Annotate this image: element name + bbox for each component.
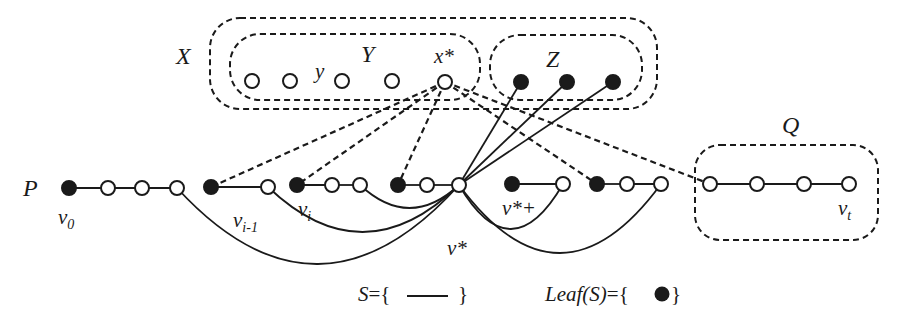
set-label-Z: Z <box>546 46 560 72</box>
dashed-edges <box>211 82 710 187</box>
legend-filled-vertex-icon <box>655 287 670 302</box>
legend-S-close: } <box>458 282 468 306</box>
vertex-label-v-star-plus: v*+ <box>502 196 536 220</box>
vertex-icon <box>842 177 856 191</box>
vertex-icon <box>170 181 184 195</box>
vertex-label-vt: vt <box>838 196 852 223</box>
leaf-vertex-icon <box>560 75 574 89</box>
vertex-icon <box>797 177 811 191</box>
vertex-icon <box>452 178 466 192</box>
vertex-label-vi: vi <box>298 197 311 224</box>
vertex-icon <box>245 74 259 88</box>
path-label-P: P <box>22 175 38 201</box>
vertex-icon <box>620 177 634 191</box>
vertex-label-vi-minus-1: vi-1 <box>233 208 258 235</box>
legend: S={ } Leaf(S)={ } <box>358 282 681 306</box>
vertex-icon <box>335 74 349 88</box>
leaf-vertex-icon <box>514 75 528 89</box>
legend-leaf-close: } <box>671 282 681 306</box>
set-label-X: X <box>175 43 192 69</box>
set-boundary-Q <box>695 145 878 240</box>
vertex-icon <box>420 178 434 192</box>
leaf-vertex-icon <box>606 75 620 89</box>
graph-diagram: X Y y x* Z Q P v0 vi-1 vi v* v*+ vt S={ … <box>0 0 898 328</box>
vertex-icon <box>283 74 297 88</box>
set-label-Y: Y <box>361 41 377 67</box>
vertex-label-x-star: x* <box>433 44 454 68</box>
vertex-icon <box>101 181 115 195</box>
dashed-edge <box>297 82 445 185</box>
leaf-vertex-icon <box>62 181 76 195</box>
solid-edge <box>459 82 567 185</box>
vertex-icon <box>750 177 764 191</box>
vertex-icon <box>654 177 668 191</box>
legend-leaf: Leaf(S)={ <box>544 282 629 306</box>
leaf-vertex-icon <box>505 177 519 191</box>
leaf-vertex-icon <box>290 178 304 192</box>
leaf-vertex-icon <box>590 177 604 191</box>
leaf-vertex-icon <box>391 178 405 192</box>
curved-edge <box>360 185 459 208</box>
vertex-icon <box>703 177 717 191</box>
set-boundary-Z <box>490 35 642 100</box>
vertex-label-v-star: v* <box>447 236 467 260</box>
curved-edge <box>177 185 459 264</box>
vertex-label-y: y <box>313 59 325 83</box>
legend-S: S={ <box>358 282 390 306</box>
leaf-vertex-icon <box>204 180 218 194</box>
vertex-icon <box>325 178 339 192</box>
vertex-icon <box>385 74 399 88</box>
vertex-icon <box>353 178 367 192</box>
vertices <box>62 74 856 195</box>
dashed-edge <box>211 82 445 187</box>
vertex-icon <box>261 180 275 194</box>
vertex-icon <box>438 75 452 89</box>
curved-edge <box>459 184 661 253</box>
dashed-edge <box>398 82 445 185</box>
set-label-Q: Q <box>782 112 799 138</box>
vertex-icon <box>556 177 570 191</box>
vertex-icon <box>135 181 149 195</box>
vertex-label-v0: v0 <box>58 205 74 232</box>
